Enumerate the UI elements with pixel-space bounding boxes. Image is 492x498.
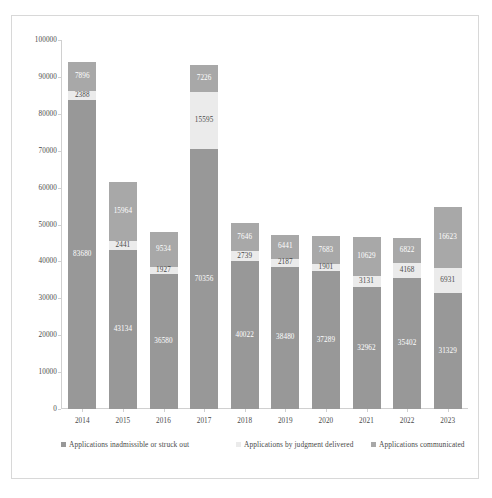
bar-segment[interactable]: 43134 <box>109 250 137 409</box>
bar-segment-value-label: 6822 <box>400 247 415 254</box>
bar-segment[interactable]: 2388 <box>68 91 96 100</box>
legend-swatch-icon <box>371 442 376 447</box>
bar-segment-value-label: 2739 <box>237 253 252 260</box>
y-axis-tick-mark <box>58 409 61 410</box>
bar-segment[interactable]: 37289 <box>312 271 340 409</box>
bar-segment[interactable]: 2187 <box>271 259 299 267</box>
bar-segment[interactable]: 31329 <box>434 293 462 409</box>
bar-segment[interactable]: 7896 <box>68 62 96 91</box>
x-axis-tick-label: 2019 <box>271 417 299 425</box>
bar-group[interactable]: 10629313132962 <box>353 237 381 409</box>
y-axis-tick-label: 70000 <box>39 147 57 155</box>
x-axis-tick-mark <box>326 409 327 412</box>
x-axis-tick-mark <box>367 409 368 412</box>
bar-segment-value-label: 37289 <box>317 337 335 344</box>
bar-segment-value-label: 7683 <box>319 247 334 254</box>
bar-segment[interactable]: 6822 <box>393 238 421 263</box>
y-axis-tick-mark <box>58 77 61 78</box>
legend-item[interactable]: Applications communicated <box>371 440 465 449</box>
chart-frame: 1000009000080000700006000050000400003000… <box>11 15 479 479</box>
legend-swatch-icon <box>236 442 241 447</box>
bar-segment[interactable]: 6441 <box>271 235 299 259</box>
y-axis-tick-mark <box>58 114 61 115</box>
legend-swatch-icon <box>61 442 66 447</box>
bar-segment[interactable]: 83680 <box>68 100 96 409</box>
bar-segment-value-label: 15595 <box>195 117 213 124</box>
bar-segment[interactable]: 4168 <box>393 263 421 278</box>
bar-group[interactable]: 15964244143134 <box>109 182 137 409</box>
bar-group[interactable]: 9534192736580 <box>150 232 178 409</box>
bar-segment[interactable]: 15595 <box>190 92 218 150</box>
bar-group[interactable]: 72261559570356 <box>190 65 218 409</box>
bar-segment[interactable]: 7226 <box>190 65 218 92</box>
bar-segment[interactable]: 36580 <box>150 274 178 409</box>
bar-segment-value-label: 2441 <box>116 242 131 249</box>
x-axis-tick-label: 2015 <box>109 417 137 425</box>
x-axis-tick-mark <box>123 409 124 412</box>
bar-segment[interactable]: 9534 <box>150 232 178 267</box>
bar-segment[interactable]: 10629 <box>353 237 381 276</box>
y-axis-tick-mark <box>58 335 61 336</box>
bar-segment[interactable]: 15964 <box>109 182 137 241</box>
bar-segment[interactable]: 3131 <box>353 276 381 288</box>
bar-segment-value-label: 70356 <box>195 276 213 283</box>
y-axis-tick-label: 90000 <box>39 73 57 81</box>
y-axis-tick-label: 40000 <box>39 257 57 265</box>
plot-area: 1000009000080000700006000050000400003000… <box>61 40 468 409</box>
bar-segment-value-label: 9534 <box>156 246 171 253</box>
bar-segment-value-label: 36580 <box>154 338 172 345</box>
bar-segment-value-label: 6931 <box>440 277 455 284</box>
bar-group[interactable]: 7683190137289 <box>312 236 340 409</box>
bar-segment[interactable]: 32962 <box>353 287 381 409</box>
bar-segment[interactable]: 35402 <box>393 278 421 409</box>
bar-segment[interactable]: 7683 <box>312 236 340 264</box>
bar-group[interactable]: 16623693131329 <box>434 207 462 409</box>
bar-segment[interactable]: 1927 <box>150 267 178 274</box>
legend-item[interactable]: Applications by judgment delivered <box>236 440 354 449</box>
bar-group[interactable]: 7896238883680 <box>68 62 96 409</box>
x-axis-tick-mark <box>82 409 83 412</box>
bar-segment-value-label: 43134 <box>114 326 132 333</box>
bar-segment-value-label: 1927 <box>156 267 171 274</box>
y-axis-tick-mark <box>58 372 61 373</box>
y-axis-tick-mark <box>58 188 61 189</box>
x-axis-tick-label: 2022 <box>393 417 421 425</box>
bar-segment-value-label: 31329 <box>438 348 456 355</box>
y-axis-tick-mark <box>58 261 61 262</box>
x-axis-tick-mark <box>245 409 246 412</box>
y-axis-tick-mark <box>58 40 61 41</box>
x-axis-ticks: 2014201520162017201820192020202120222023 <box>62 409 468 431</box>
bar-segment[interactable]: 16623 <box>434 207 462 268</box>
legend-item[interactable]: Applications inadmissible or struck out <box>61 440 189 449</box>
bar-segment-value-label: 4168 <box>400 267 415 274</box>
x-axis-tick-mark <box>448 409 449 412</box>
y-axis-tick-label: 80000 <box>39 110 57 118</box>
legend-item-label: Applications communicated <box>379 440 465 449</box>
bar-segment-value-label: 6441 <box>278 243 293 250</box>
bar-segment[interactable]: 1901 <box>312 264 340 271</box>
bar-group[interactable]: 6441218738480 <box>271 235 299 409</box>
bar-segment-value-label: 7896 <box>75 73 90 80</box>
x-axis-tick-label: 2021 <box>353 417 381 425</box>
bars-layer: 7896238883680159642441431349534192736580… <box>62 40 468 409</box>
bar-segment[interactable]: 38480 <box>271 267 299 409</box>
bar-group[interactable]: 6822416835402 <box>393 238 421 409</box>
bar-segment-value-label: 40022 <box>235 332 253 339</box>
y-axis-tick-label: 100000 <box>35 36 57 44</box>
y-axis-tick-label: 60000 <box>39 184 57 192</box>
bar-segment[interactable]: 70356 <box>190 149 218 409</box>
y-axis-tick-label: 50000 <box>39 221 57 229</box>
legend-item-label: Applications by judgment delivered <box>244 440 354 449</box>
bar-segment[interactable]: 6931 <box>434 268 462 294</box>
bar-segment[interactable]: 7646 <box>231 223 259 251</box>
legend-item-label: Applications inadmissible or struck out <box>69 440 189 449</box>
bar-segment[interactable]: 40022 <box>231 261 259 409</box>
x-axis-tick-label: 2018 <box>231 417 259 425</box>
bar-segment-value-label: 2388 <box>75 92 90 99</box>
y-axis-tick-label: 0 <box>53 405 57 413</box>
bar-segment[interactable]: 2441 <box>109 241 137 250</box>
bar-segment-value-label: 32962 <box>357 345 375 352</box>
bar-segment[interactable]: 2739 <box>231 251 259 261</box>
x-axis-tick-label: 2014 <box>68 417 96 425</box>
bar-group[interactable]: 7646273940022 <box>231 223 259 409</box>
